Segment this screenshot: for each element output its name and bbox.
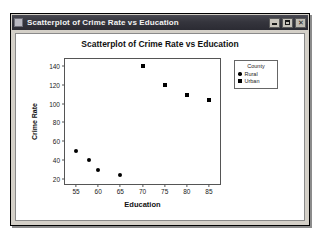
- x-axis-tick: 60: [95, 184, 102, 195]
- y-axis-tick-label: 80: [53, 119, 60, 126]
- y-axis-tick: 20: [53, 176, 65, 183]
- data-point: [118, 173, 122, 177]
- x-axis-tick-mark: [76, 184, 77, 187]
- close-icon: ✕: [296, 19, 305, 27]
- y-axis-label: Crime Rate: [28, 58, 40, 185]
- y-axis-label-text: Crime Rate: [31, 103, 38, 140]
- y-axis-tick: 140: [49, 62, 65, 69]
- x-axis-label: Education: [64, 200, 221, 209]
- y-axis-tick: 80: [53, 119, 65, 126]
- data-point: [207, 98, 211, 102]
- y-axis-tick-mark: [62, 179, 65, 180]
- y-axis-tick-label: 140: [49, 62, 60, 69]
- y-axis-tick-mark: [62, 65, 65, 66]
- legend-marker-square-icon: [238, 79, 242, 83]
- window-title: Scatterplot of Crime Rate vs Education: [27, 17, 269, 28]
- plot-area: 2040608010012014055606570758085: [65, 59, 220, 184]
- legend-item-label: Urban: [245, 78, 260, 84]
- y-axis-tick-label: 100: [49, 100, 60, 107]
- chart-title: Scatterplot of Crime Rate vs Education: [16, 39, 304, 49]
- data-point: [87, 158, 91, 162]
- window-controls: ✕: [269, 18, 306, 28]
- legend-marker-circle-icon: [238, 72, 242, 76]
- y-axis-tick-label: 40: [53, 157, 60, 164]
- x-axis-tick-mark: [164, 184, 165, 187]
- y-axis-tick: 100: [49, 100, 65, 107]
- minimize-button[interactable]: [269, 18, 280, 28]
- x-axis-tick: 75: [161, 184, 168, 195]
- y-axis-tick-mark: [62, 141, 65, 142]
- x-axis-tick-label: 55: [72, 188, 79, 195]
- data-point: [185, 93, 189, 97]
- x-axis-tick: 65: [117, 184, 124, 195]
- data-point: [163, 83, 167, 87]
- close-button[interactable]: ✕: [295, 18, 306, 28]
- legend-item-label: Rural: [245, 71, 258, 77]
- x-axis-tick: 80: [183, 184, 190, 195]
- x-axis-tick: 85: [205, 184, 212, 195]
- x-axis-tick: 55: [72, 184, 79, 195]
- x-axis-tick-label: 80: [183, 188, 190, 195]
- chart-client-area: Scatterplot of Crime Rate vs Education C…: [15, 33, 305, 221]
- y-axis-tick-label: 120: [49, 81, 60, 88]
- x-axis-tick-mark: [208, 184, 209, 187]
- x-axis-tick-label: 85: [205, 188, 212, 195]
- x-axis-tick-mark: [98, 184, 99, 187]
- plot-frame: 2040608010012014055606570758085: [64, 58, 221, 185]
- window-titlebar[interactable]: Scatterplot of Crime Rate vs Education ✕: [12, 15, 308, 30]
- y-axis-tick-mark: [62, 122, 65, 123]
- x-axis-tick-mark: [186, 184, 187, 187]
- legend-item-urban[interactable]: Urban: [238, 78, 274, 84]
- x-axis-tick-mark: [142, 184, 143, 187]
- window-menu-icon[interactable]: [14, 18, 23, 27]
- legend-item-rural[interactable]: Rural: [238, 71, 274, 77]
- y-axis-tick-mark: [62, 160, 65, 161]
- data-point: [96, 168, 100, 172]
- y-axis-tick-label: 60: [53, 138, 60, 145]
- maximize-button[interactable]: [282, 18, 293, 28]
- data-point: [74, 149, 78, 153]
- y-axis-tick-mark: [62, 84, 65, 85]
- x-axis-tick-mark: [120, 184, 121, 187]
- y-axis-tick-label: 20: [53, 176, 60, 183]
- y-axis-tick: 40: [53, 157, 65, 164]
- legend-title: County: [238, 63, 274, 69]
- x-axis-tick: 70: [139, 184, 146, 195]
- legend: County RuralUrban: [234, 60, 278, 89]
- data-point: [141, 64, 145, 68]
- x-axis-tick-label: 70: [139, 188, 146, 195]
- x-axis-tick-label: 65: [117, 188, 124, 195]
- legend-rows: RuralUrban: [238, 71, 274, 84]
- x-axis-tick-label: 75: [161, 188, 168, 195]
- y-axis-tick: 120: [49, 81, 65, 88]
- y-axis-tick: 60: [53, 138, 65, 145]
- chart-window: Scatterplot of Crime Rate vs Education ✕…: [10, 13, 310, 226]
- x-axis-tick-label: 60: [95, 188, 102, 195]
- y-axis-tick-mark: [62, 103, 65, 104]
